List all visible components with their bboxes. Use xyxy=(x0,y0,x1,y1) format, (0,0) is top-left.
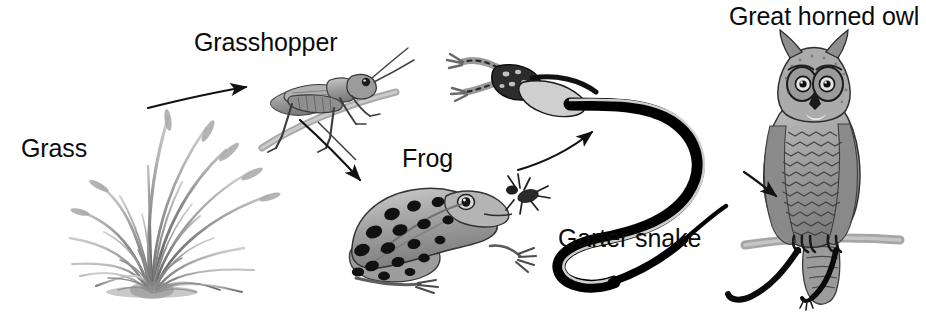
arrow-garter-snake-to-owl xyxy=(744,172,776,196)
arrow-grass-to-grasshopper xyxy=(148,87,246,108)
arrow-grasshopper-to-frog xyxy=(300,120,360,180)
label-frog: Frog xyxy=(402,146,453,171)
food-chain-diagram: Grass Grasshopper Frog Garter snake Grea… xyxy=(0,0,926,318)
label-great-horned-owl: Great horned owl xyxy=(729,4,919,29)
arrow-layer xyxy=(0,0,926,318)
label-grass: Grass xyxy=(21,136,87,161)
label-garter-snake: Garter snake xyxy=(558,226,701,251)
arrow-frog-to-garter-snake xyxy=(518,132,592,170)
label-grasshopper: Grasshopper xyxy=(194,30,337,55)
